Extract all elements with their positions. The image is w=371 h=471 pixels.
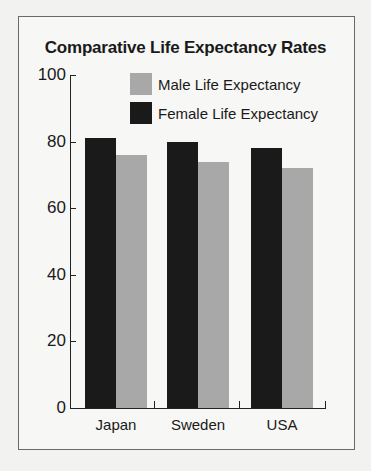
x-tick <box>154 401 155 409</box>
legend-label-male: Male Life Expectancy <box>158 76 301 93</box>
legend-item-female: Female Life Expectancy <box>130 101 318 125</box>
y-axis <box>70 75 71 409</box>
y-tick-label: 100 <box>36 65 66 85</box>
y-tick <box>70 408 76 409</box>
y-tick-label: 60 <box>36 198 66 218</box>
bar-sweden-male <box>198 162 229 408</box>
x-tick-label: Japan <box>76 416 156 433</box>
x-tick <box>239 401 240 409</box>
bar-japan-male <box>116 155 147 408</box>
y-tick <box>70 208 76 209</box>
x-axis <box>70 408 326 409</box>
bar-japan-female <box>85 138 116 408</box>
chart-title: Comparative Life Expectancy Rates <box>0 38 371 58</box>
legend-swatch-male <box>130 73 152 95</box>
y-tick <box>70 75 76 76</box>
y-tick <box>70 142 76 143</box>
y-tick-label: 20 <box>36 331 66 351</box>
bar-sweden-female <box>167 142 198 408</box>
bar-usa-female <box>251 148 282 408</box>
y-tick-label: 0 <box>36 398 66 418</box>
y-tick-label: 80 <box>36 132 66 152</box>
legend-label-female: Female Life Expectancy <box>158 105 318 122</box>
legend-item-male: Male Life Expectancy <box>130 72 301 96</box>
x-tick-label: Sweden <box>158 416 238 433</box>
x-tick-label: USA <box>242 416 322 433</box>
x-tick <box>325 401 326 409</box>
y-tick-label: 40 <box>36 265 66 285</box>
y-tick <box>70 341 76 342</box>
legend-swatch-female <box>130 102 152 124</box>
y-tick <box>70 275 76 276</box>
bar-usa-male <box>282 168 313 408</box>
